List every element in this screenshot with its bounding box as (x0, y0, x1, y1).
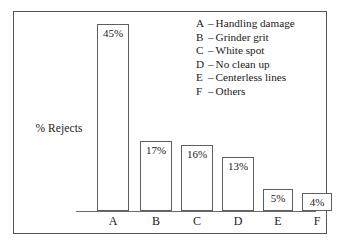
legend-key-f: F (196, 85, 207, 99)
legend-dash-f: – (207, 85, 216, 99)
legend-key-a: A (196, 17, 207, 31)
legend-description-a: Handling damage (216, 17, 295, 29)
legend-dash-a: – (207, 17, 216, 31)
chart-frame: % Rejects 45% 17% 16% 13% 5% 4% A B C D … (13, 11, 327, 234)
legend-description-e: Centerless lines (216, 71, 287, 83)
legend-item-c: C–White spot (196, 44, 328, 58)
legend-item-d: D–No clean up (196, 58, 328, 72)
legend-key-b: B (196, 31, 207, 45)
x-tick-label-b: B (140, 214, 172, 228)
legend-item-f: F–Others (196, 85, 328, 99)
legend: A–Handling damage B–Grinder grit C–White… (196, 17, 328, 99)
bar-c: 16% (181, 145, 213, 211)
x-tick-label-f: F (302, 214, 332, 228)
legend-dash-d: – (207, 58, 216, 72)
bar-value-d: 13% (223, 160, 253, 172)
plot-area: % Rejects 45% 17% 16% 13% 5% 4% A B C D … (14, 12, 328, 235)
x-tick-label-e: E (263, 214, 293, 228)
bar-value-e: 5% (264, 192, 292, 204)
x-tick-label-d: D (222, 214, 254, 228)
legend-dash-b: – (207, 31, 216, 45)
legend-description-b: Grinder grit (216, 31, 269, 43)
bar-b: 17% (140, 141, 172, 211)
legend-key-d: D (196, 58, 207, 72)
legend-description-c: White spot (216, 44, 265, 56)
legend-key-e: E (196, 71, 207, 85)
legend-dash-c: – (207, 44, 216, 58)
y-axis-label: % Rejects (24, 122, 94, 135)
bar-e: 5% (263, 189, 293, 211)
bar-value-b: 17% (141, 144, 171, 156)
x-tick-label-c: C (181, 214, 213, 228)
legend-item-e: E–Centerless lines (196, 71, 328, 85)
bar-d: 13% (222, 157, 254, 211)
bar-a: 45% (97, 24, 129, 211)
x-axis-line (76, 211, 316, 212)
x-tick-label-a: A (97, 214, 129, 228)
legend-description-f: Others (216, 85, 246, 97)
bar-value-f: 4% (303, 196, 331, 208)
bar-value-a: 45% (98, 27, 128, 39)
legend-key-c: C (196, 44, 207, 58)
bar-value-c: 16% (182, 148, 212, 160)
legend-item-a: A–Handling damage (196, 17, 328, 31)
legend-item-b: B–Grinder grit (196, 31, 328, 45)
legend-description-d: No clean up (216, 58, 270, 70)
bar-f: 4% (302, 193, 332, 211)
legend-dash-e: – (207, 71, 216, 85)
